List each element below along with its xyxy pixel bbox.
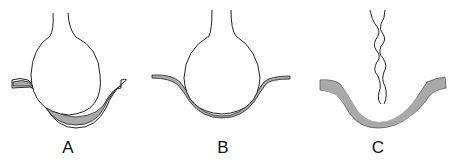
panel-a-bulb bbox=[31, 13, 100, 115]
panel-c bbox=[320, 10, 446, 128]
panel-a-label: A bbox=[53, 138, 83, 158]
panel-b bbox=[152, 10, 290, 118]
panel-c-strand-left bbox=[370, 10, 381, 104]
panel-b-label: B bbox=[208, 138, 238, 158]
panel-b-bulb bbox=[184, 10, 260, 114]
panel-c-strand-right bbox=[380, 10, 386, 104]
panel-a bbox=[12, 13, 126, 128]
panel-c-label: C bbox=[363, 138, 393, 158]
